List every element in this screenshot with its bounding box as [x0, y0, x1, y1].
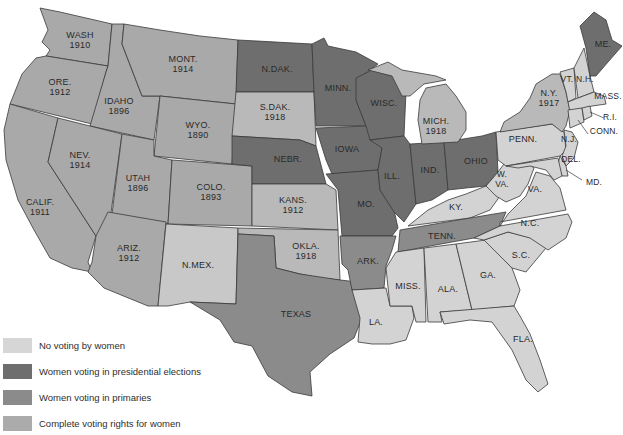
state-fla — [440, 306, 548, 392]
legend-label-complete: Complete voting rights for women — [39, 418, 181, 429]
legend-swatch-presidential — [3, 364, 32, 379]
legend-item-primaries: Women voting in primaries — [3, 384, 233, 410]
state-ny — [500, 74, 570, 132]
label-colo: COLO. — [196, 182, 225, 192]
label-ark: ARK. — [357, 256, 379, 266]
label-ndak: N.DAK. — [261, 64, 292, 74]
label-mass: MASS. — [594, 91, 621, 101]
label-conn: CONN. — [590, 126, 618, 136]
label-ri: R.I. — [603, 112, 617, 122]
label-okla: OKLA. — [292, 241, 320, 251]
label-kans-year: 1912 — [283, 205, 304, 215]
label-miss: MISS. — [395, 281, 421, 291]
label-calif-year: 1911 — [30, 207, 50, 217]
label-nmex: N.MEX. — [182, 260, 214, 270]
label-nc: N.C. — [521, 218, 540, 228]
label-sc: S.C. — [512, 250, 530, 260]
label-sdak-year: 1918 — [265, 112, 286, 122]
label-iowa: IOWA — [335, 144, 359, 154]
label-ariz-year: 1912 — [119, 253, 140, 263]
legend-item-complete: Complete voting rights for women — [3, 410, 233, 435]
label-sdak: S.DAK. — [260, 102, 291, 112]
label-wash: WASH — [66, 30, 93, 40]
label-mont-year: 1914 — [173, 64, 194, 74]
label-ny-year: 1917 — [539, 98, 560, 108]
label-wash-year: 1910 — [70, 40, 91, 50]
label-nh: N.H. — [576, 74, 594, 84]
label-wyo-year: 1890 — [188, 130, 209, 140]
legend-label-presidential: Women voting in presidential elections — [39, 366, 201, 377]
label-md: MD. — [586, 177, 602, 187]
label-vt: VT. — [561, 74, 574, 84]
label-nev: NEV. — [70, 150, 91, 160]
label-ga: GA. — [480, 270, 496, 280]
legend-swatch-primaries — [3, 390, 32, 405]
leader-line-md — [566, 170, 582, 180]
label-wyo: WYO. — [186, 120, 211, 130]
label-okla-year: 1918 — [296, 251, 317, 261]
label-ariz: ARIZ. — [117, 243, 141, 253]
label-wisc: WISC. — [371, 98, 398, 108]
label-idaho-year: 1896 — [109, 106, 130, 116]
label-tenn: TENN. — [428, 231, 456, 241]
label-texas: TEXAS — [281, 309, 312, 319]
label-colo-year: 1893 — [201, 192, 222, 202]
legend-swatch-no-voting — [3, 338, 32, 353]
label-penn: PENN. — [509, 134, 538, 144]
label-ala: ALA. — [438, 284, 458, 294]
label-va: VA. — [528, 184, 542, 194]
map-legend: No voting by women Women voting in presi… — [3, 332, 233, 435]
legend-item-presidential: Women voting in presidential elections — [3, 358, 233, 384]
label-ky: KY. — [449, 202, 463, 212]
label-la: LA. — [369, 317, 383, 327]
label-minn: MINN. — [325, 83, 352, 93]
label-wva-line1: W. — [497, 169, 507, 179]
label-mich-year: 1918 — [426, 126, 447, 136]
label-nev-year: 1914 — [70, 160, 91, 170]
label-wva-line2: VA. — [495, 179, 509, 189]
label-mo: MO. — [357, 199, 375, 209]
label-del: DEL. — [561, 154, 581, 164]
legend-label-no-voting: No voting by women — [39, 340, 125, 351]
legend-label-primaries: Women voting in primaries — [39, 392, 151, 403]
label-utah-year: 1896 — [128, 183, 149, 193]
label-ore-year: 1912 — [50, 87, 71, 97]
label-ind: IND. — [421, 165, 440, 175]
label-ore: ORE. — [49, 77, 72, 87]
label-me: ME. — [595, 39, 612, 49]
state-ri — [582, 106, 592, 120]
legend-item-no-voting: No voting by women — [3, 332, 233, 358]
label-fla: FLA. — [513, 334, 533, 344]
label-ill: ILL. — [384, 171, 400, 181]
label-ohio: OHIO — [464, 156, 488, 166]
label-nebr: NEBR. — [274, 154, 303, 164]
label-calif: CALIF. — [26, 197, 54, 207]
legend-swatch-complete — [3, 416, 32, 431]
label-idaho: IDAHO — [104, 96, 134, 106]
label-ny: N.Y. — [540, 88, 557, 98]
label-mich: MICH. — [423, 116, 450, 126]
label-mont: MONT. — [169, 54, 198, 64]
label-utah: UTAH — [126, 173, 151, 183]
label-nj: N.J. — [561, 134, 577, 144]
label-kans: KANS. — [279, 195, 307, 205]
